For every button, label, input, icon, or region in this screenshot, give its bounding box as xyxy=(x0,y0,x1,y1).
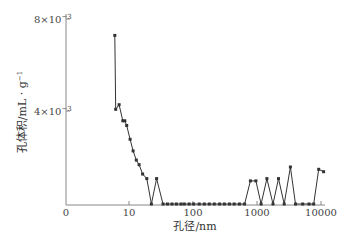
x-tick-label-1000: 1000 xyxy=(244,207,269,218)
data-point xyxy=(203,203,206,206)
data-point xyxy=(155,177,158,180)
data-point xyxy=(213,203,216,206)
data-point xyxy=(198,203,201,206)
data-point xyxy=(218,203,221,206)
data-point xyxy=(141,173,144,176)
data-point xyxy=(308,203,311,206)
data-point xyxy=(249,179,252,182)
data-point xyxy=(289,166,292,169)
data-point xyxy=(228,203,231,206)
data-point xyxy=(294,203,297,206)
x-tick-label-10000: 10000 xyxy=(305,207,337,218)
data-point xyxy=(125,124,128,127)
data-point xyxy=(322,170,325,173)
data-point xyxy=(238,203,241,206)
data-point xyxy=(166,203,169,206)
chart: 8×10−3 4×10−3 0 10 100 1000 10000 孔径/nm … xyxy=(0,0,347,241)
data-point xyxy=(277,177,280,180)
data-point xyxy=(265,177,268,180)
data-point xyxy=(301,203,304,206)
data-point xyxy=(171,203,174,206)
data-point xyxy=(123,119,126,122)
data-point xyxy=(283,203,286,206)
data-point xyxy=(272,203,275,206)
data-point xyxy=(118,103,121,106)
data-point xyxy=(175,203,178,206)
data-point xyxy=(188,203,191,206)
data-markers xyxy=(113,34,325,206)
data-point xyxy=(132,149,135,152)
data-point xyxy=(233,203,236,206)
data-point xyxy=(129,138,132,141)
data-point xyxy=(317,168,320,171)
y-axis-label: 孔体积/mL · g−1 xyxy=(15,71,29,153)
data-point xyxy=(254,179,257,182)
x-axis-label: 孔径/nm xyxy=(173,220,217,233)
data-point xyxy=(208,203,211,206)
data-point xyxy=(114,108,117,111)
x-tick-label-10: 10 xyxy=(123,207,136,218)
x-tick-label-0: 0 xyxy=(63,207,69,218)
data-point xyxy=(162,203,165,206)
data-point xyxy=(243,203,246,206)
data-point xyxy=(145,177,148,180)
data-point xyxy=(192,203,195,206)
data-point xyxy=(180,203,183,206)
data-point xyxy=(138,163,141,166)
data-point xyxy=(135,159,138,162)
data-point xyxy=(150,203,153,206)
data-point xyxy=(183,203,186,206)
data-point xyxy=(260,203,263,206)
data-point xyxy=(223,203,226,206)
data-point xyxy=(312,203,315,206)
data-point xyxy=(113,34,116,37)
x-tick-label-100: 100 xyxy=(183,207,202,218)
